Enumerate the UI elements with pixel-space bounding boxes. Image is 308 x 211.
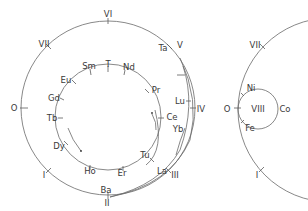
tick-Gd <box>60 98 64 100</box>
tick-Pr <box>145 89 149 93</box>
label-right-O: O <box>224 104 231 114</box>
label-O: O <box>11 103 18 113</box>
label-Ni: Ni <box>247 83 256 93</box>
label-Yb: Yb <box>172 124 184 134</box>
outer-labels: VI VII O I II III IV V <box>11 9 206 208</box>
label-Nd: Nd <box>123 62 135 72</box>
label-III: III <box>171 170 179 180</box>
label-Ta: Ta <box>158 43 168 53</box>
label-Dy: Dy <box>53 141 65 151</box>
label-Fe: Fe <box>245 123 255 133</box>
label-Sm: Sm <box>82 61 96 71</box>
label-II: II <box>104 198 109 208</box>
inner-labels: Sm T Nd Pr Ce Eu Gd Tb Dy Ho Er <box>46 59 178 178</box>
label-Lu: Lu <box>175 96 185 106</box>
label-VI: VI <box>104 9 112 19</box>
label-Tb: Tb <box>46 113 58 123</box>
direction-arrow-right <box>152 114 156 130</box>
arrow-head-left <box>80 150 82 152</box>
tick-right-Ni <box>241 93 244 96</box>
label-VII: VII <box>39 39 50 49</box>
label-Gd: Gd <box>48 93 60 103</box>
label-I: I <box>43 170 46 180</box>
right-labels: VII O I VIII Co Ni Fe <box>224 40 291 180</box>
label-Er: Er <box>118 168 127 178</box>
direction-arrow-left <box>68 128 81 151</box>
label-VIII: VIII <box>251 104 264 114</box>
label-Eu: Eu <box>61 75 72 85</box>
label-T: T <box>104 59 111 69</box>
label-V: V <box>177 40 183 50</box>
label-Tu: Tu <box>139 150 149 160</box>
label-Pr: Pr <box>152 85 161 95</box>
label-Co: Co <box>279 104 290 114</box>
tick-I <box>46 168 51 173</box>
tick-right-VII <box>260 44 265 49</box>
label-Ba: Ba <box>100 185 111 195</box>
periodic-spiral-diagram: VI VII O I II III IV V Ta Lu Yb La Ba Tu… <box>0 0 308 211</box>
label-right-I: I <box>256 170 259 180</box>
label-La: La <box>157 166 167 176</box>
label-right-VII: VII <box>250 40 261 50</box>
right-outer-circle <box>238 18 308 202</box>
label-Ce: Ce <box>166 112 177 122</box>
tick-Eu <box>72 80 76 84</box>
tick-V <box>167 44 172 49</box>
label-IV: IV <box>197 104 206 114</box>
arrow-head-right <box>151 112 153 114</box>
label-Ho: Ho <box>84 166 96 176</box>
